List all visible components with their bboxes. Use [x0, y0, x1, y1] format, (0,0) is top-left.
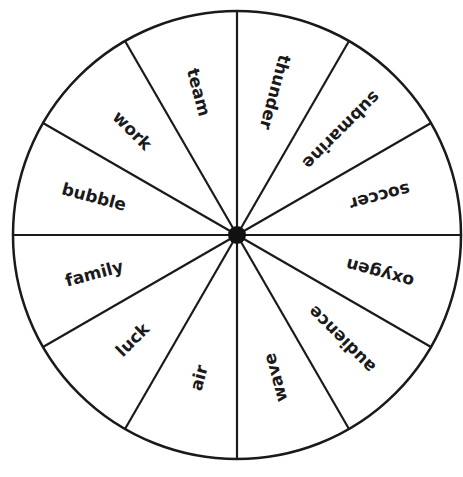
- wheel-hub: [228, 226, 246, 244]
- word-spinner-wheel[interactable]: soccersubmarinethunderteamworkbubblefami…: [0, 0, 463, 477]
